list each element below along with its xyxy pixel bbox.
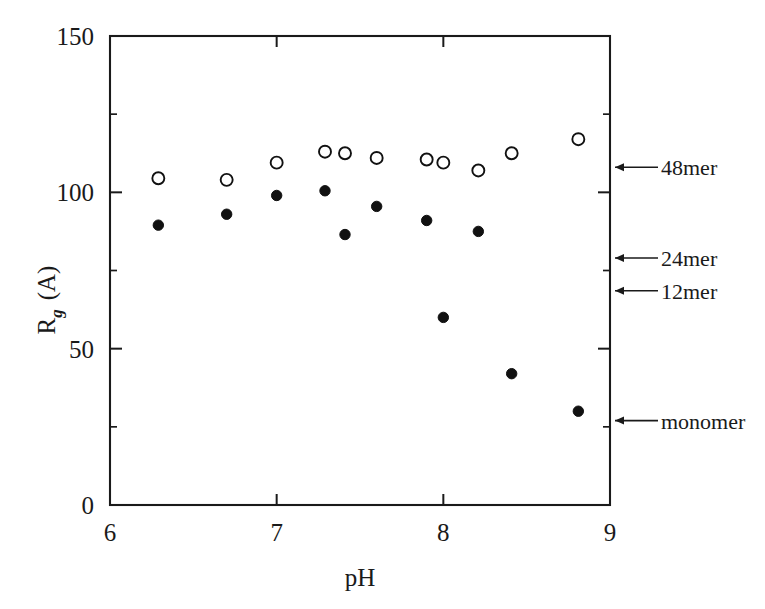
data-point-filled xyxy=(421,215,431,225)
data-point-filled xyxy=(506,368,516,378)
y-tick-label: 0 xyxy=(82,492,95,519)
data-point-filled xyxy=(340,229,350,239)
figure-container: 0501001506789 48mer24mer12mermonomer pH … xyxy=(0,0,765,609)
data-point-filled xyxy=(573,406,583,416)
data-point-open xyxy=(221,174,233,186)
axis-tick-labels: 0501001506789 xyxy=(57,23,617,546)
data-point-open xyxy=(437,157,449,169)
annotation-arrow-head xyxy=(615,287,624,295)
data-point-open xyxy=(421,154,433,166)
x-axis-title: pH xyxy=(345,564,376,591)
y-axis-title-unit: (A) xyxy=(33,266,61,301)
x-tick-label: 8 xyxy=(437,519,450,546)
data-point-filled xyxy=(221,209,231,219)
scatter-plot-svg: 0501001506789 48mer24mer12mermonomer pH … xyxy=(0,0,765,609)
annotation-arrow-head xyxy=(615,254,624,262)
y-axis-title: Rg(A) xyxy=(33,266,66,335)
annotation-labels: 48mer24mer12mermonomer xyxy=(661,155,746,433)
y-tick-label: 150 xyxy=(57,23,95,50)
data-point-filled xyxy=(153,220,163,230)
data-point-open xyxy=(152,172,164,184)
annotation-label: 12mer xyxy=(661,279,718,304)
data-point-filled xyxy=(271,190,281,200)
x-tick-label: 6 xyxy=(104,519,117,546)
x-tick-label: 7 xyxy=(270,519,283,546)
annotation-label: 24mer xyxy=(661,246,718,271)
y-axis-title-main: R xyxy=(33,317,60,334)
data-point-filled xyxy=(320,186,330,196)
plot-frame xyxy=(110,36,610,505)
annotation-label: 48mer xyxy=(661,155,718,180)
data-point-open xyxy=(472,164,484,176)
data-point-filled xyxy=(473,226,483,236)
data-point-filled xyxy=(438,312,448,322)
data-point-open xyxy=(319,146,331,158)
y-axis-title-subscript: g xyxy=(47,309,66,319)
data-point-open xyxy=(572,133,584,145)
axes-box xyxy=(110,36,610,505)
y-tick-label: 100 xyxy=(57,179,95,206)
y-axis-title-group: Rg(A) xyxy=(33,266,66,335)
annotation-label: monomer xyxy=(661,409,746,434)
y-tick-label: 50 xyxy=(69,336,94,363)
data-markers xyxy=(152,133,584,416)
data-point-open xyxy=(371,152,383,164)
x-tick-label: 9 xyxy=(604,519,617,546)
annotation-arrow-head xyxy=(615,417,624,425)
data-point-filled xyxy=(371,201,381,211)
annotation-arrows xyxy=(615,163,658,424)
data-point-open xyxy=(271,157,283,169)
axis-ticks xyxy=(110,36,610,505)
data-point-open xyxy=(339,147,351,159)
annotation-arrow-head xyxy=(615,163,624,171)
data-point-open xyxy=(506,147,518,159)
